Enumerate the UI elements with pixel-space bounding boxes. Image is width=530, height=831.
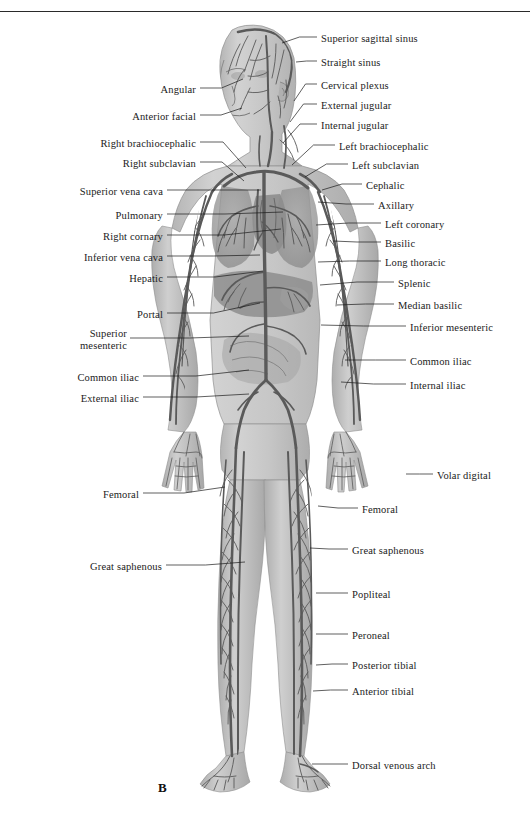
vena-cava-vessel [264,172,266,380]
leader-femoral [318,506,358,508]
label-anterior-facial: Anterior facial [132,111,196,123]
external-jugular-vessel [284,126,286,168]
label-posterior-tibial: Posterior tibial [352,660,417,672]
label-common-iliac: Common iliac [410,356,472,368]
label-anterior-tibial: Anterior tibial [352,686,414,698]
label-basilic: Basilic [385,238,415,250]
label-right-brachiocephalic: Right brachiocephalic [100,138,196,150]
label-straight-sinus: Straight sinus [321,57,381,69]
leader-cervical-plexus [294,84,317,101]
leader-great-saphenous [310,548,348,549]
label-hepatic: Hepatic [129,273,163,285]
leader-posterior-tibial [316,664,348,665]
label-long-thoracic: Long thoracic [385,257,446,269]
leader-external-jugular [290,104,317,122]
label-internal-jugular: Internal jugular [321,120,388,132]
label-axillary: Axillary [378,200,414,212]
label-internal-iliac: Internal iliac [410,380,465,392]
label-superior-vena-cava: Superior vena cava [80,186,163,198]
label-femoral: Femoral [103,489,139,501]
label-superior: Superiormesenteric [63,328,127,351]
label-pulmonary: Pulmonary [116,210,163,222]
label-popliteal: Popliteal [352,589,391,601]
leader-straight-sinus [296,61,317,62]
label-median-basilic: Median basilic [398,300,462,312]
label-cervical-plexus: Cervical plexus [321,80,389,92]
superior-vena-cava-branch [257,190,258,240]
anatomical-figure [0,0,530,831]
label-femoral: Femoral [362,504,398,516]
label-common-iliac: Common iliac [77,372,139,384]
label-external-iliac: External iliac [81,393,139,405]
label-left-brachiocephalic: Left brachiocephalic [339,141,429,153]
leader-anterior-tibial [313,690,348,691]
label-peroneal: Peroneal [352,630,390,642]
label-cephalic: Cephalic [366,180,405,192]
label-left-coronary: Left coronary [385,219,444,231]
label-left-subclavian: Left subclavian [352,160,419,172]
leader-femoral [143,487,225,493]
label-volar-digital: Volar digital [437,470,491,482]
label-angular: Angular [161,84,196,96]
label-splenic: Splenic [398,278,431,290]
label-portal: Portal [137,309,163,321]
label-external-jugular: External jugular [321,100,391,112]
label-great-saphenous: Great saphenous [352,545,424,557]
label-inferior-vena-cava: Inferior vena cava [84,252,163,264]
label-superior-line2: mesenteric [80,340,127,351]
leader-left-brachiocephalic [292,145,335,165]
label-dorsal-venous-arch: Dorsal venous arch [352,760,436,772]
leader-internal-jugular [283,124,317,143]
venous-system-illustration [0,0,530,831]
figure-page: AngularAnterior facialRight brachiocepha… [0,0,530,831]
label-inferior-mesenteric: Inferior mesenteric [410,322,493,334]
panel-letter: B [158,780,167,796]
label-right-cornary: Right cornary [103,231,163,243]
label-great-saphenous: Great saphenous [90,561,162,573]
label-right-subclavian: Right subclavian [123,158,196,170]
label-superior-sagittal-sinus: Superior sagittal sinus [321,33,418,45]
